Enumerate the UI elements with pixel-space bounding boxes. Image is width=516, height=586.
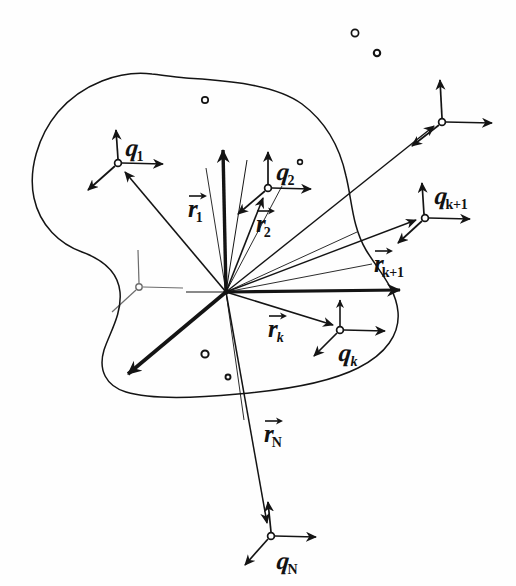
vector-overbar-icon xyxy=(269,311,288,320)
frame-axis-x xyxy=(344,330,385,331)
particle-dot xyxy=(374,50,380,56)
frame-axis-z xyxy=(268,502,271,532)
frame-axis-z xyxy=(138,250,139,283)
frame-axis-x xyxy=(143,287,183,288)
diagram-vector-layer xyxy=(0,0,516,586)
label-r2: r2 xyxy=(256,211,271,240)
frame-axis-x xyxy=(446,122,492,123)
frame-axis-y xyxy=(88,166,115,190)
frame-axis-z xyxy=(116,130,118,159)
vector-overbar-icon xyxy=(265,416,284,425)
vector-overbar-icon xyxy=(257,206,276,215)
vector-downleft-thick xyxy=(128,292,226,374)
frame-origin-dot xyxy=(439,119,446,126)
vector-rk1 xyxy=(226,290,400,292)
frame-origin-dot xyxy=(115,160,122,167)
vector-ray-g xyxy=(226,292,244,420)
label-rk1: rk+1 xyxy=(374,251,404,280)
frame-axis-x xyxy=(275,536,316,537)
frame-axis-y xyxy=(398,221,422,243)
vector-rN xyxy=(226,292,267,523)
frame-origin-dot xyxy=(136,284,142,290)
frame-q2 xyxy=(238,152,311,214)
label-rk: rk xyxy=(268,316,284,345)
particle-dot xyxy=(351,29,358,36)
frame-corner xyxy=(412,80,492,146)
vector-vertical-thick xyxy=(223,150,226,292)
frame-origin-dot xyxy=(422,215,429,222)
label-q1: q1 xyxy=(126,135,143,164)
vector-overbar-icon xyxy=(375,246,394,255)
vector-overbar-icon xyxy=(189,191,208,200)
frame-origin-dot xyxy=(337,327,344,334)
particle-dot xyxy=(201,350,208,357)
particle-dot xyxy=(202,97,208,103)
vector-ray-e xyxy=(226,264,372,292)
frame-axis-y xyxy=(412,125,439,146)
origin-point xyxy=(223,289,228,294)
frame-axis-x xyxy=(272,188,311,189)
frame-axis-y xyxy=(112,290,136,312)
frame-origin-dot xyxy=(268,533,275,540)
frame-axis-x xyxy=(429,218,470,219)
vector-r1 xyxy=(125,172,226,292)
label-qk: qk xyxy=(339,340,358,369)
label-qk1: qk+1 xyxy=(435,183,468,212)
frame-interior xyxy=(112,250,183,312)
frame-origin-dot xyxy=(265,185,272,192)
frame-axis-z xyxy=(440,80,442,118)
particle-dot xyxy=(226,375,231,380)
label-q2: q2 xyxy=(277,159,294,188)
label-rN: rN xyxy=(264,421,282,450)
frame-axis-z xyxy=(422,183,424,214)
particle-dot xyxy=(298,160,303,165)
label-r1: r1 xyxy=(188,196,203,225)
label-qN: qN xyxy=(277,548,297,577)
frame-axis-y xyxy=(245,539,268,565)
frame-axis-y xyxy=(314,333,337,356)
diagram-canvas: q1 q2 qk+1 qk qN r1 r2 xyxy=(0,0,516,586)
